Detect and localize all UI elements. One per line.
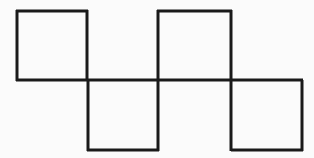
matchstick-figure-canvas — [0, 0, 314, 158]
matchstick-diagram — [0, 0, 314, 158]
